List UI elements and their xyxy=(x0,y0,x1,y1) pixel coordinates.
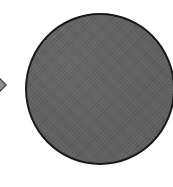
gray-circle-shape xyxy=(25,13,173,165)
diamond-shape xyxy=(0,75,7,95)
canvas xyxy=(0,0,173,187)
